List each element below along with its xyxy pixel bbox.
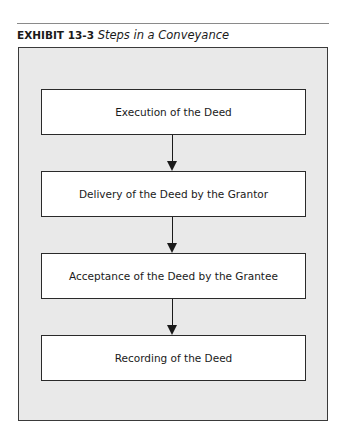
exhibit-caption: Steps in a Conveyance: [98, 28, 229, 42]
arrow-down-icon: [167, 135, 178, 171]
arrow-down-icon: [167, 217, 178, 253]
step-box-recording: Recording of the Deed: [41, 335, 306, 381]
step-label: Execution of the Deed: [115, 106, 232, 118]
step-label: Acceptance of the Deed by the Grantee: [69, 270, 278, 282]
exhibit-title: EXHIBIT 13-3 Steps in a Conveyance: [17, 28, 229, 42]
step-box-execution: Execution of the Deed: [41, 89, 306, 135]
exhibit-label: EXHIBIT 13-3: [17, 29, 94, 41]
step-box-acceptance: Acceptance of the Deed by the Grantee: [41, 253, 306, 299]
step-label: Recording of the Deed: [115, 352, 233, 364]
header-rule: [17, 23, 329, 24]
step-label: Delivery of the Deed by the Grantor: [79, 188, 268, 200]
step-box-delivery: Delivery of the Deed by the Grantor: [41, 171, 306, 217]
arrow-down-icon: [167, 299, 178, 335]
